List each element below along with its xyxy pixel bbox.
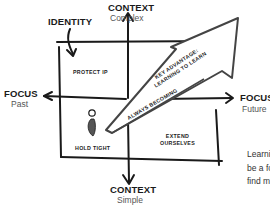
focus-left-title: FOCUS bbox=[4, 88, 38, 99]
horizontal-axis-left bbox=[44, 96, 126, 99]
side-paragraph-line1: Learni bbox=[247, 148, 270, 162]
box-right-edge bbox=[216, 110, 219, 165]
quadrant-protect-ip: PROTECT IP bbox=[73, 69, 108, 76]
identity-label: IDENTITY bbox=[48, 16, 92, 27]
vertical-axis-lower bbox=[128, 118, 129, 182]
box-bottom-edge bbox=[61, 157, 222, 161]
quadrant-extend-ourselves: EXTEND OURSELVES bbox=[160, 133, 195, 147]
quadrant-hold-tight: HOLD TIGHT bbox=[75, 145, 110, 152]
diagram-drawing bbox=[0, 0, 270, 208]
person-icon bbox=[88, 110, 95, 136]
context-top-title: CONTEXT bbox=[108, 2, 154, 13]
side-paragraph-line3: find m bbox=[247, 175, 270, 189]
focus-right-title: FOCUS bbox=[240, 92, 270, 103]
side-paragraph: Learni be a fo find m bbox=[247, 148, 270, 189]
quadrant-extend-line2: OURSELVES bbox=[160, 140, 195, 147]
context-bottom-title: CONTEXT bbox=[110, 184, 156, 195]
side-paragraph-line2: be a fo bbox=[247, 162, 270, 176]
focus-right-subtitle: Future bbox=[242, 104, 267, 114]
context-top-subtitle: Complex bbox=[110, 13, 144, 23]
focus-left-subtitle: Past bbox=[11, 99, 28, 109]
context-bottom-subtitle: Simple bbox=[117, 195, 143, 205]
box-left-edge bbox=[59, 47, 61, 157]
quadrant-extend-line1: EXTEND bbox=[160, 133, 195, 140]
